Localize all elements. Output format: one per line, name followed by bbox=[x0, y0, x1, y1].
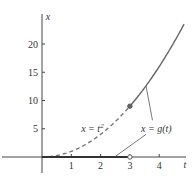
x-tick-label: 1 bbox=[69, 160, 74, 171]
y-axis-label: x bbox=[45, 11, 51, 22]
series-line bbox=[130, 24, 184, 106]
annotation-label: x = g(t) bbox=[140, 123, 172, 135]
x-tick-label: 2 bbox=[98, 160, 103, 171]
annotation-superscript: 2 bbox=[100, 122, 104, 130]
chart: tx12345101520x = t2x = g(t) bbox=[0, 0, 192, 177]
x-tick-label: 3 bbox=[127, 160, 132, 171]
leader-line bbox=[115, 134, 146, 156]
leader-line bbox=[146, 86, 152, 120]
x-tick-label: 4 bbox=[157, 160, 162, 171]
open-point bbox=[128, 155, 132, 159]
y-tick-label: 5 bbox=[33, 123, 38, 134]
y-tick-label: 15 bbox=[28, 67, 38, 78]
y-tick-label: 10 bbox=[28, 95, 38, 106]
x-axis-label: t bbox=[184, 159, 187, 170]
filled-point bbox=[128, 104, 132, 108]
annotation-label: x = t2 bbox=[80, 122, 104, 134]
y-tick-label: 20 bbox=[28, 39, 38, 50]
